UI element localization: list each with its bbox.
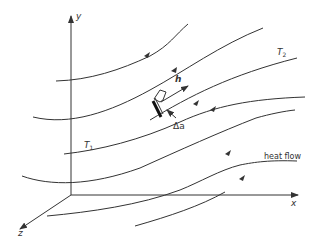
heat-flow-diagram: y x z h Δa — [0, 0, 322, 245]
h-vector-label: h — [175, 74, 181, 84]
flow-arrow-icon — [225, 150, 231, 156]
y-axis-label: y — [75, 11, 82, 21]
heat-flow-lines — [22, 24, 305, 226]
z-axis-label: z — [17, 228, 23, 238]
flow-arrow-icon — [144, 52, 150, 58]
flow-line-3 — [150, 58, 297, 120]
heat-flow-label: heat flow — [264, 152, 302, 161]
t2-label: T2 — [277, 47, 287, 58]
t1-label: T1 — [84, 140, 94, 151]
flow-line-7 — [135, 192, 225, 226]
surface-edge — [153, 101, 161, 117]
flow-arrow-icon — [239, 175, 245, 181]
delta-a-pointer — [167, 110, 176, 118]
flow-line-1 — [56, 24, 188, 81]
coordinate-axes: y x z — [17, 11, 298, 238]
z-axis — [20, 195, 71, 229]
flow-arrow-icon — [193, 100, 199, 106]
flow-line-6 — [47, 161, 297, 216]
flow-arrow-icon — [171, 67, 177, 73]
surface-element — [153, 86, 188, 118]
flow-line-5 — [22, 110, 295, 183]
delta-a-label: Δa — [173, 121, 185, 131]
x-axis-label: x — [290, 198, 297, 208]
